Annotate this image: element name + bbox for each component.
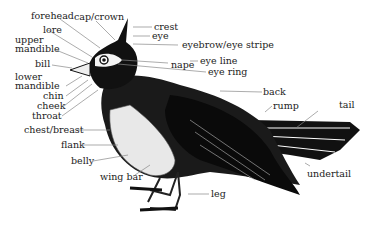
label-rump: rump: [273, 101, 299, 111]
label-flank: flank: [61, 140, 85, 150]
label-eye-line: eye line: [200, 56, 237, 66]
label-eye: eye: [152, 31, 169, 41]
label-eye-ring: eye ring: [208, 67, 247, 77]
label-lore: lore: [43, 25, 62, 35]
label-throat: throat: [32, 111, 62, 121]
label-nape: nape: [171, 60, 195, 70]
label-eyebrow-eye-stripe: eyebrow/eye stripe: [182, 40, 274, 50]
label-cap-crown: cap/crown: [74, 12, 124, 22]
label-upper-mandible-line2: mandible: [15, 44, 60, 54]
bird-anatomy-diagram: forehead cap/crown lore upper mandible b…: [0, 0, 372, 233]
label-wing-bar: wing bar: [100, 172, 143, 182]
label-forehead: forehead: [31, 11, 74, 21]
label-belly: belly: [71, 156, 94, 166]
label-bill: bill: [35, 59, 50, 69]
label-leg: leg: [211, 189, 226, 199]
label-tail: tail: [339, 100, 355, 110]
label-undertail: undertail: [307, 169, 351, 179]
label-back: back: [263, 87, 286, 97]
label-chest-breast: chest/breast: [24, 125, 84, 135]
